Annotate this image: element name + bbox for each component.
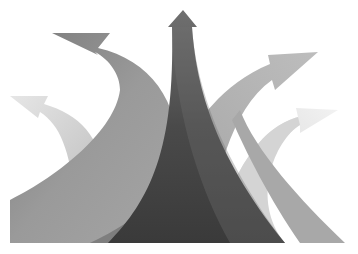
- bottom-band: [0, 243, 358, 254]
- arrows-graphic: [0, 0, 358, 254]
- diverging-arrows-illustration: [0, 0, 358, 254]
